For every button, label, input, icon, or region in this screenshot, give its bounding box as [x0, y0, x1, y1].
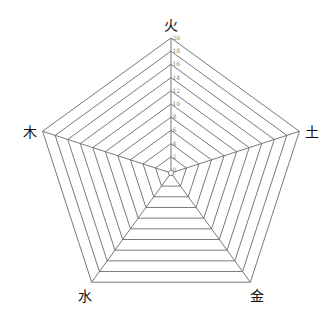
axis-label-2: 金: [250, 288, 264, 304]
tick-label-12: 12: [173, 87, 181, 94]
radar-spokes: [43, 38, 300, 282]
tick-label-2: 2: [173, 153, 177, 160]
tick-label-0: 0: [173, 166, 177, 173]
tick-label-10: 10: [173, 100, 181, 107]
axis-label-3: 水: [78, 288, 92, 304]
spoke-4: [43, 131, 169, 172]
tick-label-20: 20: [173, 34, 181, 41]
axis-label-1: 土: [305, 124, 319, 140]
axis-label-4: 木: [23, 124, 37, 140]
radar-chart: 02468101214161820 火土金水木: [0, 0, 336, 316]
tick-label-4: 4: [173, 140, 177, 147]
spoke-1: [174, 131, 300, 172]
tick-label-16: 16: [173, 60, 181, 67]
tick-label-8: 8: [173, 113, 177, 120]
tick-label-14: 14: [173, 74, 181, 81]
tick-label-6: 6: [173, 126, 177, 133]
tick-label-18: 18: [173, 47, 181, 54]
axis-label-0: 火: [164, 17, 178, 33]
